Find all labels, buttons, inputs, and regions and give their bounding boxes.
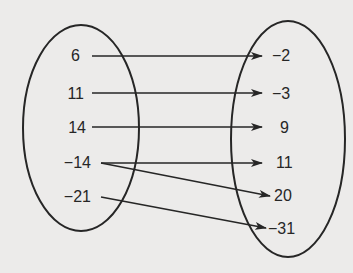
range-value: 9	[280, 120, 320, 136]
range-value: −3	[272, 86, 312, 102]
mapping-diagram: 6 11 14 −14 −21 −2 −3 9 11 20 −31	[0, 0, 353, 273]
range-value: −31	[268, 221, 308, 237]
range-value: 20	[274, 188, 314, 204]
arrow-neg21-to-neg31	[101, 197, 266, 228]
range-value: −2	[272, 48, 312, 64]
domain-value: 11	[44, 86, 84, 102]
domain-value: 6	[40, 48, 80, 64]
range-value: 11	[276, 155, 316, 171]
domain-value: −21	[51, 189, 91, 205]
domain-value: −14	[51, 155, 91, 171]
domain-value: 14	[46, 120, 86, 136]
